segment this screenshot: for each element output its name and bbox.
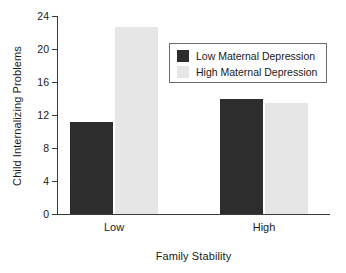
legend-swatch-icon: [177, 50, 189, 62]
bar: [115, 27, 158, 214]
legend-item-high-maternal-depression: High Maternal Depression: [177, 65, 317, 79]
bar: [220, 99, 263, 214]
y-axis-tick: [52, 49, 57, 50]
bar: [70, 122, 113, 214]
y-axis-tick: [52, 148, 57, 149]
y-axis-tick-label: 0: [23, 209, 49, 219]
bar: [265, 103, 308, 214]
y-axis-tick-label: 4: [23, 176, 49, 186]
legend-item-label: High Maternal Depression: [196, 66, 317, 78]
bar-chart-figure: Child Internalizing Problems 04812162024…: [0, 0, 346, 273]
y-axis-tick: [52, 181, 57, 182]
y-axis-tick-label: 16: [23, 77, 49, 87]
y-axis-tick: [52, 16, 57, 17]
y-axis-tick-label: 20: [23, 44, 49, 54]
y-axis-tick-label: 12: [23, 110, 49, 120]
y-axis-line: [57, 16, 58, 215]
y-axis-tick: [52, 214, 57, 215]
y-axis-tick: [52, 82, 57, 83]
legend-item-low-maternal-depression: Low Maternal Depression: [177, 49, 315, 63]
legend-swatch-icon: [177, 66, 189, 78]
x-axis-tick-label: High: [204, 221, 324, 233]
chart-legend: Low Maternal Depression High Maternal De…: [169, 43, 327, 83]
x-axis-tick-label: Low: [54, 221, 174, 233]
x-axis-title: Family Stability: [57, 250, 330, 262]
y-axis-tick-label: 8: [23, 143, 49, 153]
y-axis-tick: [52, 115, 57, 116]
y-axis-tick-label: 24: [23, 11, 49, 21]
legend-item-label: Low Maternal Depression: [196, 50, 315, 62]
x-axis-line: [57, 214, 330, 215]
